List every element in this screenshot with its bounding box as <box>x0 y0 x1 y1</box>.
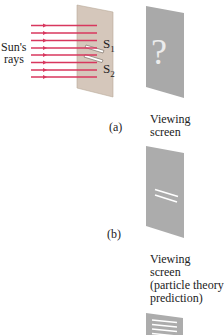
panel-b-tag: (b) <box>107 228 121 241</box>
panel-a-tag: (a) <box>109 121 122 134</box>
panel-a-screen-label-2: screen <box>150 126 181 139</box>
slit-1-subscript: 1 <box>110 44 115 54</box>
slit-1-label: S1 <box>103 37 115 56</box>
panel-b-screen-label-4: prediction) <box>150 292 203 305</box>
slit-2-label: S2 <box>103 62 115 81</box>
ray-arrow-icons <box>43 24 47 80</box>
unknown-pattern-icon: ? <box>151 34 167 70</box>
slit-2-subscript: 2 <box>110 69 115 79</box>
viewing-screen-c <box>146 313 183 335</box>
sun-rays-label-2: rays <box>4 53 24 66</box>
